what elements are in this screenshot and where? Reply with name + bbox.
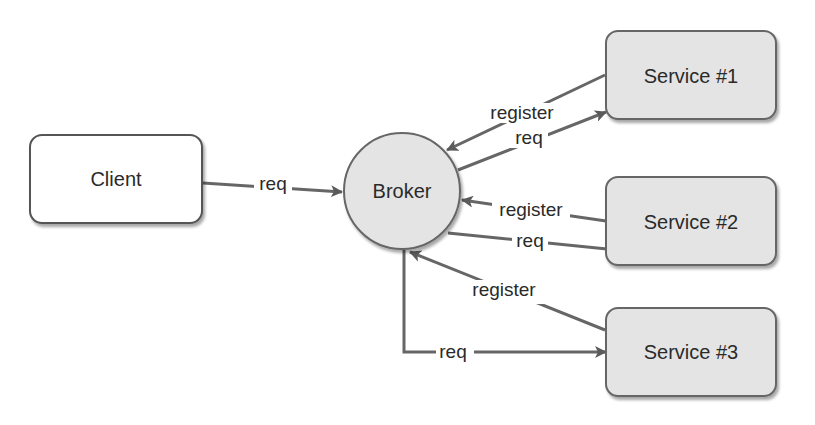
node-label-broker: Broker (373, 180, 432, 202)
edge-label-req: req (515, 127, 542, 148)
node-label-service1: Service #1 (644, 65, 739, 87)
node-label-service2: Service #2 (644, 211, 739, 233)
edge-service2-register: register (462, 199, 606, 221)
edge-label-req: req (259, 173, 286, 194)
edge-service3-register: register (410, 252, 605, 330)
node-service1: Service #1 (606, 31, 776, 119)
edge-client-broker: req (203, 173, 342, 194)
edge-label-register: register (472, 279, 536, 300)
node-label-service3: Service #3 (644, 341, 739, 363)
edge-label-req: req (439, 341, 466, 362)
node-label-client: Client (90, 168, 142, 190)
node-service2: Service #2 (606, 177, 776, 265)
edge-service2-req: req (448, 230, 607, 251)
node-client: Client (30, 135, 202, 223)
broker-diagram: req register req register req register r… (0, 0, 815, 425)
edge-label-register: register (499, 199, 563, 220)
node-broker: Broker (344, 133, 460, 249)
node-service3: Service #3 (606, 308, 776, 396)
edge-label-req: req (516, 230, 543, 251)
edge-service3-req: req (404, 250, 606, 362)
edge-label-register: register (490, 102, 554, 123)
